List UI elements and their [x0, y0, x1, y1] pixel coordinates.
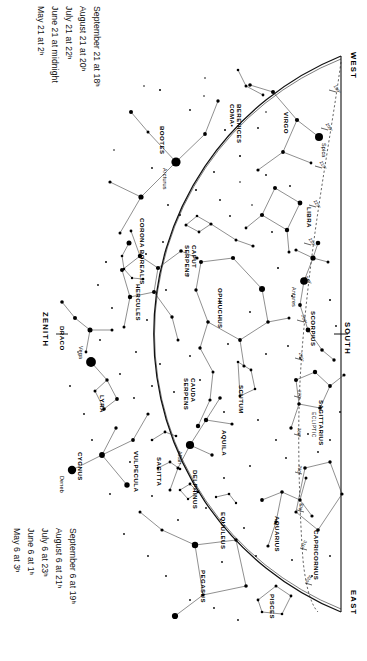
constellation-label: DRACO [59, 326, 66, 351]
date-row: May 21 at 2ʰ [36, 6, 46, 55]
date-row: May 6 at 3ʰ [12, 528, 22, 573]
constellation-label: DELPHINUS [192, 470, 199, 509]
constellation-label: BOOTES [159, 126, 166, 154]
direction-label-west: WEST [349, 52, 358, 79]
constellation-label: LIBRA [306, 207, 313, 228]
date-row: July 6 at 23ʰ [40, 528, 50, 577]
star-label-altair: Altair [177, 451, 183, 464]
constellation-label: SAGITTA [156, 457, 163, 486]
constellation-label: CAPRICORNUS [313, 530, 320, 580]
constellation-label: HERCULES [135, 284, 142, 321]
constellation-label: SERPENS [184, 245, 191, 277]
constellation-label: SAGITTARIUS [318, 400, 325, 446]
constellation-label: EQUULEUS [220, 512, 227, 549]
star-label-vega: Vega [78, 346, 84, 359]
constellation-label: SCUTUM [238, 385, 245, 414]
star-chart: May 21 at 2ʰ June 21 at midnight July 21… [0, 0, 367, 661]
degree-label: 270° [297, 390, 302, 399]
constellation-label: PEGASUS [200, 570, 207, 603]
constellation-label: SCORPIUS [310, 311, 317, 346]
star-label-spica: Spica [321, 143, 327, 158]
star-label-antares: Antares [291, 287, 297, 307]
ecliptic-label: ECLIPTIC [311, 412, 316, 438]
constellation-label: VIRGO [283, 112, 290, 134]
date-row: August 21 at 20ʰ [78, 6, 88, 71]
date-row: August 6 at 21ʰ [54, 528, 64, 588]
constellation-label: BERENICES [236, 104, 243, 144]
star-field [60, 69, 345, 621]
constellation-label: SERPENS [183, 378, 190, 410]
constellation-label: CYGNUS [77, 452, 84, 481]
constellation-label: CORONA BOREALIS [139, 218, 146, 285]
constellation-label: OPHIUCHUS [217, 288, 224, 329]
degree-label: 280° [296, 428, 302, 438]
direction-label-east: EAST [349, 590, 358, 615]
constellation-label: VULPECULA [133, 451, 140, 492]
date-row: September 6 at 19ʰ [68, 528, 78, 604]
constellation-label: AQUARIUS [274, 516, 281, 552]
direction-label-zenith: ZENITH [41, 312, 50, 347]
constellation-label: LYRA [99, 395, 106, 413]
constellation-label: CAUDA [190, 378, 197, 402]
date-row: July 21 at 22ʰ [64, 6, 74, 59]
direction-label-south: SOUTH [343, 322, 352, 355]
constellation-label: PISCES [269, 594, 276, 619]
star-label-deneb: Deneb [59, 476, 65, 493]
constellation-label: AQUILA [221, 430, 228, 456]
date-row: June 6 at 1ʰ [26, 528, 36, 575]
constellation-lines [62, 70, 344, 616]
date-row: September 21 at 18ʰ [92, 6, 102, 87]
constellation-label: COMA• [229, 104, 236, 127]
date-row: June 21 at midnight [50, 6, 60, 83]
constellation-label: CAPUT [191, 245, 198, 268]
star-label-arcturus: Arcturus [162, 168, 168, 190]
